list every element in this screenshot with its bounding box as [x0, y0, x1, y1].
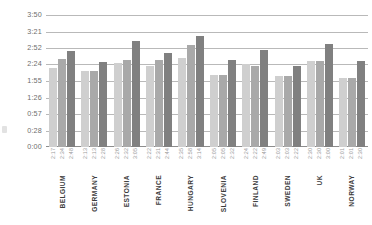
bar: [58, 59, 66, 147]
category-label: SLOVENIA: [220, 175, 227, 212]
bar-group: [207, 15, 239, 147]
category-label: GERMANY: [91, 175, 98, 212]
bar-value-label: 2:34: [58, 148, 67, 159]
bar: [196, 36, 204, 147]
bar-value-label: 2:28: [99, 148, 108, 159]
bar-value-label: 2:05: [219, 148, 228, 159]
bar-groups: [46, 15, 368, 147]
bar-value-label: 2:30: [306, 148, 315, 159]
bar: [219, 75, 227, 147]
bar: [99, 62, 107, 147]
x-axis-group: 2:032:032:22SWEDEN: [271, 148, 303, 225]
y-axis-tick-label: 0:00: [0, 143, 42, 151]
category-label: FRANCE: [155, 175, 162, 205]
bar-group: [78, 15, 110, 147]
bar: [123, 60, 131, 147]
bar-value-label: 2:22: [292, 148, 301, 159]
x-axis-labels: 2:172:342:48BELGIUM2:132:132:28GERMANY2:…: [46, 148, 368, 225]
bar-group: [46, 15, 78, 147]
y-axis-tick-label: 1:26: [0, 94, 42, 102]
bar-group: [175, 15, 207, 147]
bar-value-label: 2:26: [113, 148, 122, 159]
bar: [155, 60, 163, 147]
x-axis-group: 2:242:222:49FINLAND: [239, 148, 271, 225]
bar: [284, 76, 292, 147]
bar-value-label: 2:03: [274, 148, 283, 159]
bar: [316, 61, 324, 147]
category-label: FINLAND: [252, 175, 259, 207]
value-labels: 2:012:012:30: [338, 148, 365, 172]
bar: [210, 75, 218, 147]
y-axis-tick-label: 3:21: [0, 28, 42, 36]
bar: [90, 71, 98, 147]
bar: [187, 45, 195, 147]
value-labels: 2:262:323:05: [113, 148, 140, 172]
category-label: UK: [316, 175, 323, 185]
bar: [146, 66, 154, 148]
y-axis-tick-label: 1:55: [0, 77, 42, 85]
category-label: ESTONIA: [123, 175, 130, 207]
bar-value-label: 2:24: [242, 148, 251, 159]
y-axis-tick-label: 2:24: [0, 60, 42, 68]
bar-value-label: 2:32: [122, 148, 131, 159]
bar-chart: 0:000:280:571:261:552:242:523:213:50 2:1…: [0, 0, 372, 225]
bar-value-label: 3:14: [195, 148, 204, 159]
y-axis-tick-label: 0:57: [0, 110, 42, 118]
bar-group: [271, 15, 303, 147]
bar: [178, 58, 186, 147]
bar: [275, 76, 283, 147]
y-axis-labels: 0:000:280:571:261:552:242:523:213:50: [0, 15, 42, 147]
bar: [164, 53, 172, 147]
bar-group: [336, 15, 368, 147]
value-labels: 2:242:222:49: [242, 148, 269, 172]
bar: [293, 66, 301, 148]
x-axis-group: 2:352:583:14HUNGARY: [175, 148, 207, 225]
bar: [132, 41, 140, 147]
bar-value-label: 2:49: [260, 148, 269, 159]
bar-value-label: 2:22: [145, 148, 154, 159]
bar-group: [143, 15, 175, 147]
y-axis-tick-label: 2:52: [0, 44, 42, 52]
bar: [251, 66, 259, 148]
bar-value-label: 2:30: [315, 148, 324, 159]
bar: [339, 78, 347, 147]
bar-value-label: 2:05: [210, 148, 219, 159]
category-label: SWEDEN: [284, 175, 291, 207]
x-axis-group: 2:302:303:00UK: [304, 148, 336, 225]
bar-value-label: 2:48: [67, 148, 76, 159]
x-axis-group: 2:222:312:44FRANCE: [143, 148, 175, 225]
bar: [228, 60, 236, 147]
bar-value-label: 2:32: [228, 148, 237, 159]
value-labels: 2:302:303:00: [306, 148, 333, 172]
bar: [242, 64, 250, 147]
bar: [67, 51, 75, 147]
x-axis-group: 2:132:132:28GERMANY: [78, 148, 110, 225]
bar: [81, 71, 89, 147]
value-labels: 2:352:583:14: [177, 148, 204, 172]
bar-group: [110, 15, 142, 147]
bar-value-label: 3:00: [324, 148, 333, 159]
y-axis-tick-label: 0:28: [0, 127, 42, 135]
category-label: NORWAY: [348, 175, 355, 207]
bar: [114, 63, 122, 147]
bar: [307, 61, 315, 147]
x-axis-group: 2:012:012:30NORWAY: [336, 148, 368, 225]
bar-value-label: 2:31: [154, 148, 163, 159]
bar: [325, 44, 333, 147]
bar-value-label: 2:17: [49, 148, 58, 159]
bar-value-label: 2:44: [163, 148, 172, 159]
bar-value-label: 2:13: [81, 148, 90, 159]
bar-value-label: 3:05: [131, 148, 140, 159]
value-labels: 2:222:312:44: [145, 148, 172, 172]
value-labels: 2:032:032:22: [274, 148, 301, 172]
y-axis-tick-label: 3:50: [0, 11, 42, 19]
bar-group: [304, 15, 336, 147]
bar-value-label: 2:03: [283, 148, 292, 159]
bar: [348, 78, 356, 147]
value-labels: 2:132:132:28: [81, 148, 108, 172]
x-axis-group: 2:262:323:05ESTONIA: [110, 148, 142, 225]
category-label: HUNGARY: [187, 175, 194, 211]
x-axis-group: 2:052:052:32SLOVENIA: [207, 148, 239, 225]
bar-value-label: 2:22: [251, 148, 260, 159]
bar: [357, 61, 365, 147]
